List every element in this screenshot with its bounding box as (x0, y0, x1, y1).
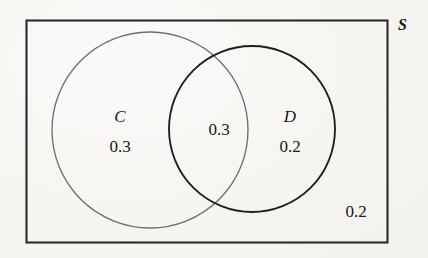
set-d-label: D (284, 108, 296, 125)
venn-diagram-figure: S C 0.3 0.3 D 0.2 0.2 (0, 0, 428, 258)
intersection-value: 0.3 (208, 121, 229, 138)
set-c-label: C (114, 108, 125, 125)
set-d-circle (169, 46, 335, 212)
universe-label: S (398, 17, 407, 33)
outside-value: 0.2 (345, 203, 366, 220)
set-d-value: 0.2 (279, 138, 300, 155)
set-c-value: 0.3 (109, 138, 130, 155)
